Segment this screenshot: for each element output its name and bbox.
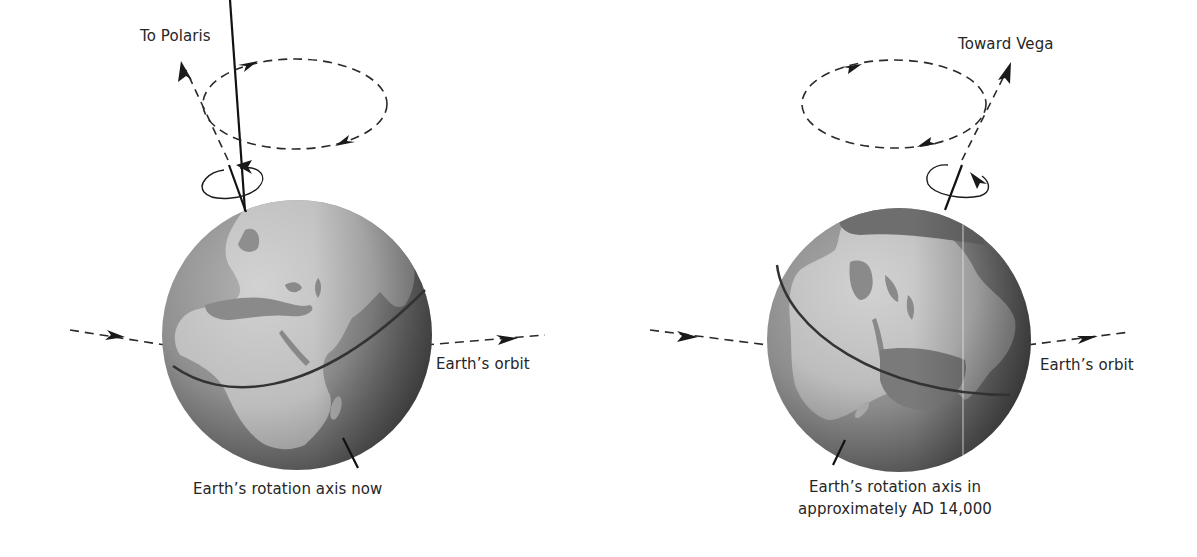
- axis-extension-dashed: [962, 72, 1006, 160]
- label-earths-orbit-right: Earth’s orbit: [1040, 356, 1134, 374]
- precession-ellipse: [203, 59, 387, 149]
- earth-globe-ad14000: [765, 205, 1035, 475]
- rotation-arrow-icon: [927, 165, 989, 197]
- diagram-canvas: [0, 0, 1197, 557]
- precession-arrow-icon: [238, 61, 258, 72]
- label-to-polaris: To Polaris: [140, 27, 211, 45]
- precession-arrow-icon: [917, 137, 937, 147]
- orbit-arrow-icon: [496, 335, 518, 345]
- panel-now: [70, 0, 545, 475]
- panel-ad14000: [650, 60, 1130, 475]
- orbit-arrow-icon: [677, 331, 698, 342]
- orbit-arrow-icon: [1077, 336, 1098, 344]
- label-axis-future-line2: approximately AD 14,000: [775, 498, 1015, 520]
- rotation-axis-top: [945, 165, 962, 210]
- earth-globe-now: [160, 195, 440, 475]
- label-earths-orbit-left: Earth’s orbit: [436, 355, 530, 373]
- precession-arrow-icon: [842, 64, 862, 74]
- label-axis-future: Earth’s rotation axis in approximately A…: [775, 476, 1015, 520]
- label-toward-vega: Toward Vega: [958, 35, 1054, 53]
- precession-ellipse: [802, 60, 986, 148]
- arrow-to-vega-icon: [998, 62, 1011, 84]
- label-axis-now: Earth’s rotation axis now: [193, 480, 382, 498]
- axis-extension-dashed: [186, 70, 228, 160]
- label-axis-future-line1: Earth’s rotation axis in: [775, 476, 1015, 498]
- rotation-arrow-icon: [202, 160, 262, 198]
- precession-diagram: To Polaris Earth’s orbit Earth’s rotatio…: [0, 0, 1197, 557]
- precession-arrow-icon: [335, 135, 355, 146]
